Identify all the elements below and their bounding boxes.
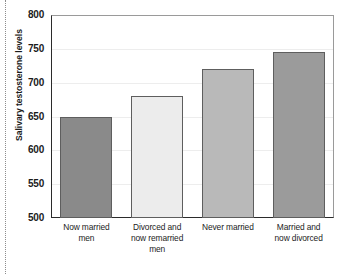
bar [131,96,183,218]
y-axis-tick-label: 500 [0,212,44,223]
bar-chart-figure: Salivary testosterone levels 50055060065… [0,0,345,274]
bar [202,69,254,218]
x-axis-tick-label-line: Married and [255,222,343,233]
y-axis-tick-label: 700 [0,77,44,88]
page-margin-dotted-rule [5,0,6,274]
y-axis-tick-label: 750 [0,43,44,54]
x-axis-tick-label: Married andnow divorced [255,222,343,244]
y-axis-tick-label: 800 [0,9,44,20]
bar [273,52,325,218]
bars-layer [51,15,334,218]
y-axis-tick-label: 650 [0,111,44,122]
bar [60,117,112,219]
x-axis-tick-label-line: now remarried [113,233,201,244]
x-axis-tick-label-line: now divorced [255,233,343,244]
y-axis-tick-label: 600 [0,144,44,155]
x-axis-tick-label-line: men [113,244,201,255]
y-axis-tick-label: 550 [0,178,44,189]
